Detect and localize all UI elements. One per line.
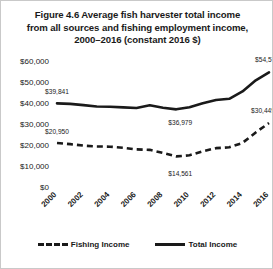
y-tick-label: $40,000 [20,99,49,108]
plot-area: $0$10,000$20,000$30,000$40,000$50,000$60… [1,53,273,231]
legend-item-fishing-income: Fishing Income [38,240,130,249]
figure-title: Figure 4.6 Average fish harvester total … [9,9,266,47]
figure-title-line-1: Figure 4.6 Average fish harvester total … [9,9,266,22]
x-tick-label: 2016 [251,190,270,209]
solid-line-icon [155,243,185,246]
y-tick-label: $60,000 [20,57,49,66]
series-line-total-income [57,72,269,109]
x-tick-label: 2010 [172,190,191,209]
data-point-label: $20,950 [45,128,69,135]
data-point-label: $30,449 [251,107,273,114]
figure-container: Figure 4.6 Average fish harvester total … [0,0,273,269]
data-series-group [57,72,269,156]
data-point-label: $14,561 [168,170,192,177]
y-tick-label: $20,000 [20,141,49,150]
line-chart-svg: $0$10,000$20,000$30,000$40,000$50,000$60… [1,53,273,231]
data-point-label: $54,572 [255,56,273,63]
x-tick-label: 2014 [225,190,244,209]
data-point-label: $39,841 [45,88,69,95]
y-tick-label: $0 [40,183,49,192]
dashed-line-icon [38,243,68,246]
data-point-labels: $39,841$36,979$54,572$20,950$14,561$30,4… [45,56,273,177]
legend-item-total-income: Total Income [155,240,237,249]
legend-label-fishing-income: Fishing Income [71,240,130,249]
chart-legend: Fishing Income Total Income [1,233,273,255]
x-tick-label: 2008 [145,190,164,209]
y-tick-label: $50,000 [20,78,49,87]
y-tick-label: $10,000 [20,162,49,171]
data-point-label: $36,979 [168,119,192,126]
x-axis-tick-labels: 200020022004200620082010201220142016 [39,190,270,209]
figure-title-line-3: 2000–2016 (constant 2016 $) [9,34,266,47]
x-tick-label: 2004 [92,190,111,209]
figure-title-line-2: from all sources and fishing employment … [9,22,266,35]
legend-label-total-income: Total Income [188,240,237,249]
series-line-fishing-income [57,123,269,156]
y-axis-tick-labels: $0$10,000$20,000$30,000$40,000$50,000$60… [20,57,49,192]
x-tick-label: 2006 [119,190,138,209]
x-tick-label: 2012 [198,190,217,209]
x-tick-label: 2002 [66,190,85,209]
x-tick-label: 2000 [39,190,58,209]
